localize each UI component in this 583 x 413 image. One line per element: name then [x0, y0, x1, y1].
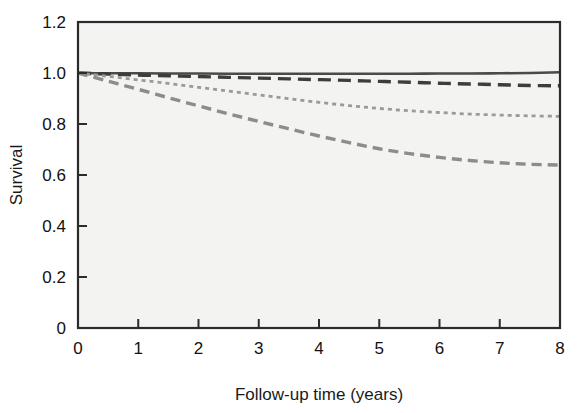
x-axis-tick-label: 3 [254, 339, 263, 358]
survival-curve-1 [78, 72, 560, 74]
x-axis-tick-label: 6 [435, 339, 444, 358]
y-axis-tick-label: 0.8 [42, 115, 66, 134]
x-axis-tick-label: 5 [375, 339, 384, 358]
survival-curve-chart: 00.20.40.60.81.01.2 012345678 Follow-up … [0, 0, 583, 413]
x-axis-tick-label: 1 [134, 339, 143, 358]
x-axis-title: Follow-up time (years) [235, 385, 403, 404]
x-axis-tick-label: 2 [194, 339, 203, 358]
x-axis-tick-label: 0 [73, 339, 82, 358]
y-axis-tick-label: 0.6 [42, 166, 66, 185]
y-axis-tick-label: 0 [57, 319, 66, 338]
y-axis-tick-label: 1.0 [42, 64, 66, 83]
y-axis-title: Survival [7, 145, 26, 205]
x-axis-tick-label: 8 [555, 339, 564, 358]
y-axis-tick-label: 1.2 [42, 13, 66, 32]
x-axis-tick-label: 4 [314, 339, 323, 358]
y-axis-tick-label: 0.2 [42, 268, 66, 287]
x-axis-tick-label: 7 [495, 339, 504, 358]
plot-area-background [78, 22, 560, 328]
y-axis-tick-label: 0.4 [42, 217, 66, 236]
